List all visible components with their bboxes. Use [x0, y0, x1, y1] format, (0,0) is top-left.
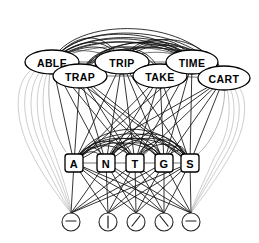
letter-node-t-label: T — [131, 158, 138, 170]
network-canvas: A N T G S ABLE — [0, 0, 259, 243]
network-diagram: A N T G S ABLE — [0, 0, 259, 243]
feature-nodes — [62, 213, 200, 231]
letter-node-a-label: A — [70, 158, 78, 170]
letter-node-s[interactable]: S — [181, 154, 199, 172]
word-node-cart-label: CART — [209, 73, 240, 85]
word-nodes: ABLE TRAP TRIP TAKE TIME CART — [25, 50, 250, 90]
feature-node-3[interactable] — [127, 213, 145, 231]
letter-node-t[interactable]: T — [126, 154, 144, 172]
word-node-cart[interactable]: CART — [198, 66, 250, 90]
feature-node-1[interactable] — [62, 213, 80, 231]
letter-node-g[interactable]: G — [155, 154, 173, 172]
word-node-trip-label: TRIP — [109, 57, 135, 69]
feature-node-5[interactable] — [182, 213, 200, 231]
letter-node-a[interactable]: A — [65, 154, 83, 172]
feature-node-4[interactable] — [155, 213, 173, 231]
feature-node-2[interactable] — [99, 213, 117, 231]
letter-node-n-label: N — [102, 158, 110, 170]
word-node-take-label: TAKE — [145, 71, 174, 83]
letter-node-g-label: G — [160, 158, 169, 170]
word-node-time-label: TIME — [179, 57, 206, 69]
letter-node-s-label: S — [186, 158, 194, 170]
letter-node-n[interactable]: N — [97, 154, 115, 172]
word-node-trap-label: TRAP — [65, 71, 95, 83]
